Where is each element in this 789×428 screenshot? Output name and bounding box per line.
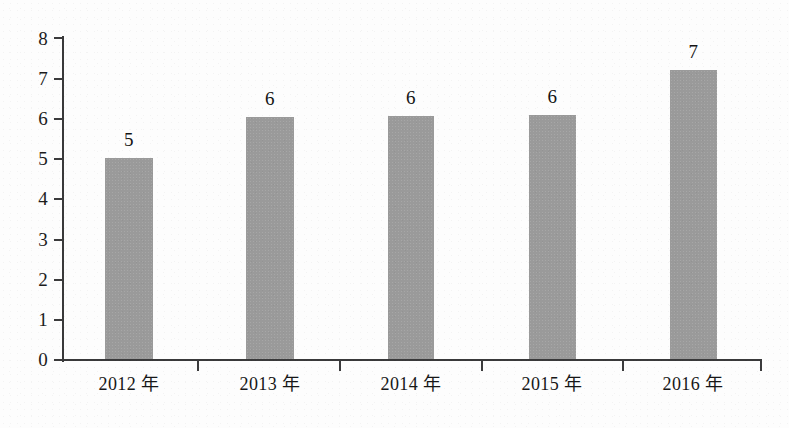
y-axis-label-1: 1 xyxy=(22,310,48,329)
y-axis-label-4: 4 xyxy=(22,189,48,208)
bar-value-2012: 5 xyxy=(105,130,153,149)
bar-value-2016: 7 xyxy=(670,42,717,61)
y-tick-8 xyxy=(54,37,63,39)
bar-value-2015: 6 xyxy=(529,87,576,106)
x-tick-2 xyxy=(339,360,341,371)
x-category-label-2016: 2016 年 xyxy=(643,374,743,395)
x-tick-5 xyxy=(760,360,762,371)
y-tick-5 xyxy=(54,158,63,160)
plot-area: 0 1 2 3 4 5 6 7 8 5 6 6 6 7 2012 年 2013 … xyxy=(0,0,789,428)
bar-2012 xyxy=(105,158,153,359)
x-axis-line xyxy=(62,359,762,361)
y-tick-7 xyxy=(54,78,63,80)
y-tick-1 xyxy=(54,319,63,321)
x-category-label-2015: 2015 年 xyxy=(502,374,602,395)
y-axis-label-8: 8 xyxy=(22,29,48,48)
y-axis-label-5: 5 xyxy=(22,149,48,168)
y-axis-label-7: 7 xyxy=(22,69,48,88)
bar-2014 xyxy=(388,116,434,359)
y-tick-6 xyxy=(54,118,63,120)
bar-2015 xyxy=(529,115,576,359)
bar-value-2014: 6 xyxy=(388,88,434,107)
bar-value-2013: 6 xyxy=(246,89,294,108)
x-tick-3 xyxy=(481,360,483,371)
y-tick-3 xyxy=(54,239,63,241)
x-category-label-2014: 2014 年 xyxy=(361,374,461,395)
bar-2013 xyxy=(246,117,294,359)
y-axis-label-3: 3 xyxy=(22,230,48,249)
y-axis-label-0: 0 xyxy=(22,350,48,369)
bar-2016 xyxy=(670,70,717,359)
y-axis-label-6: 6 xyxy=(22,109,48,128)
x-category-label-2013: 2013 年 xyxy=(220,374,320,395)
x-tick-1 xyxy=(197,360,199,371)
y-tick-2 xyxy=(54,279,63,281)
y-axis-label-2: 2 xyxy=(22,270,48,289)
y-tick-4 xyxy=(54,198,63,200)
bar-chart: 0 1 2 3 4 5 6 7 8 5 6 6 6 7 2012 年 2013 … xyxy=(0,0,789,428)
x-tick-4 xyxy=(622,360,624,371)
y-tick-0 xyxy=(54,359,63,361)
x-category-label-2012: 2012 年 xyxy=(79,374,179,395)
